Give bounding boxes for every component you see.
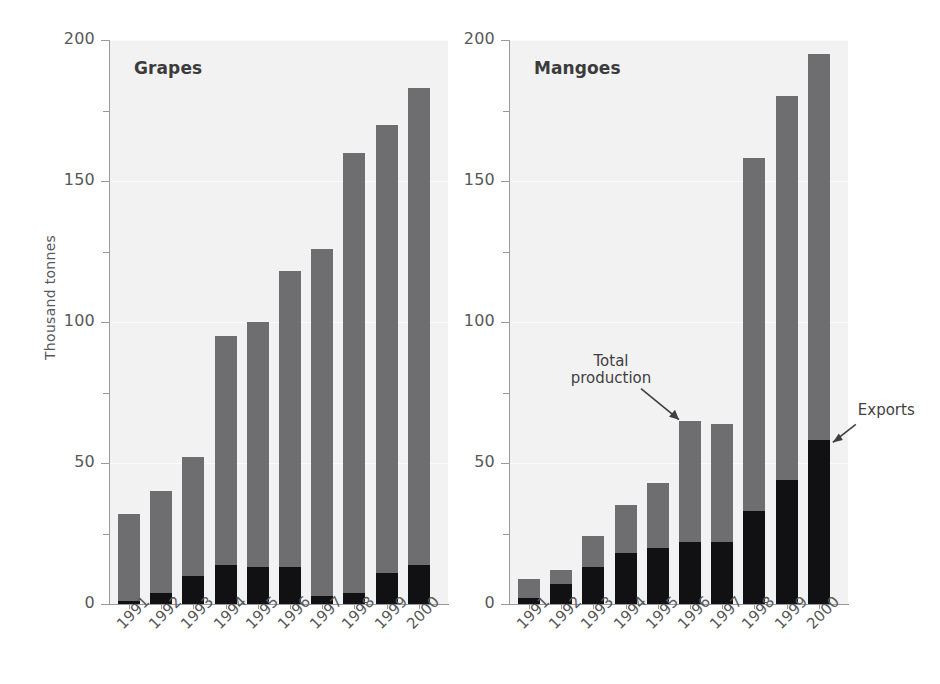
y-axis-tick-label: 50 [51, 454, 95, 470]
bar-grapes-1993[interactable] [182, 457, 204, 604]
chart-panel-grapes: Thousand tonnes Grapes 20015010050019911… [0, 0, 470, 684]
bar-grapes-1998[interactable] [343, 153, 365, 604]
y-axis-tick-label: 150 [51, 172, 95, 188]
y-axis-tick-label: 0 [51, 595, 95, 611]
bar-grapes-1995[interactable] [247, 322, 269, 604]
y-axis-tick-minor [103, 252, 110, 253]
bar-grapes-1999[interactable] [376, 125, 398, 604]
figure-root: Thousand tonnes Grapes 20015010050019911… [0, 0, 940, 684]
y-axis-tick-minor [103, 534, 110, 535]
y-axis-tick-major [101, 322, 110, 323]
bar-segment-total-production [247, 322, 269, 604]
bar-segment-total-production [279, 271, 301, 604]
bar-segment-total-production [118, 514, 140, 604]
y-axis-label: Thousand tonnes [42, 235, 58, 360]
bar-grapes-1991[interactable] [118, 514, 140, 604]
bar-grapes-1996[interactable] [279, 271, 301, 604]
annotation-exports: Exports [858, 402, 940, 419]
panel-title-grapes: Grapes [134, 58, 202, 78]
bar-segment-total-production [376, 125, 398, 604]
annotation-arrow-exports [460, 0, 930, 684]
chart-panel-mangoes: Mangoes 20015010050019911992199319941995… [460, 0, 930, 684]
y-axis-tick-minor [103, 393, 110, 394]
bar-grapes-2000[interactable] [408, 88, 430, 604]
y-axis-tick-major [101, 40, 110, 41]
bar-grapes-1997[interactable] [311, 249, 333, 604]
y-axis-tick-label: 200 [51, 31, 95, 47]
bar-segment-total-production [150, 491, 172, 604]
bar-grapes-1992[interactable] [150, 491, 172, 604]
y-axis-tick-major [101, 604, 110, 605]
bar-segment-total-production [311, 249, 333, 604]
bar-segment-total-production [408, 88, 430, 604]
y-axis-tick-label: 100 [51, 313, 95, 329]
y-axis-tick-minor [103, 111, 110, 112]
bar-segment-total-production [343, 153, 365, 604]
y-axis-tick-major [101, 181, 110, 182]
gridline [110, 40, 448, 41]
bar-grapes-1994[interactable] [215, 336, 237, 604]
y-axis-tick-major [101, 463, 110, 464]
